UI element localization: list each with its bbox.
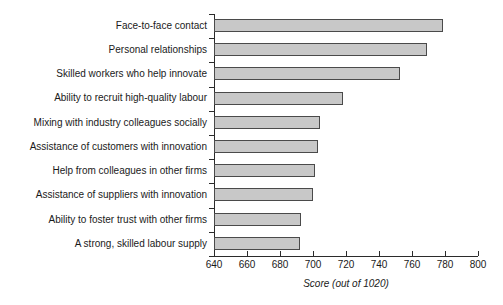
category-label: Assistance of suppliers with innovation <box>0 189 207 200</box>
x-axis-tick <box>412 251 413 256</box>
x-axis-tick-label: 760 <box>404 259 421 270</box>
x-axis-tick <box>214 251 215 256</box>
x-axis-tick <box>313 251 314 256</box>
bar <box>214 188 313 201</box>
x-axis-line <box>214 256 478 257</box>
bar <box>214 237 300 250</box>
x-axis-tick-label: 720 <box>338 259 355 270</box>
x-axis-tick-label: 640 <box>206 259 223 270</box>
bar <box>214 19 443 32</box>
category-label: Mixing with industry colleagues socially <box>0 117 207 128</box>
category-label: Ability to foster trust with other firms <box>0 214 207 225</box>
x-axis-tick <box>478 251 479 256</box>
x-axis-tick <box>379 251 380 256</box>
x-axis-tick-label: 700 <box>305 259 322 270</box>
x-axis-tick-label: 780 <box>437 259 454 270</box>
x-axis-tick-label: 800 <box>470 259 487 270</box>
bar <box>214 213 301 226</box>
x-axis-tick-label: 680 <box>272 259 289 270</box>
category-label: Ability to recruit high-quality labour <box>0 92 207 103</box>
bar <box>214 67 400 80</box>
bar <box>214 92 343 105</box>
plot-area <box>214 14 478 256</box>
category-label: Skilled workers who help innovate <box>0 68 207 79</box>
x-axis-tick <box>280 251 281 256</box>
x-axis-title: Score (out of 1020) <box>214 278 478 289</box>
x-axis-tick <box>445 251 446 256</box>
x-axis-tick-label: 660 <box>239 259 256 270</box>
category-label: Assistance of customers with innovation <box>0 141 207 152</box>
x-axis-tick <box>247 251 248 256</box>
x-axis-tick <box>346 251 347 256</box>
category-label: A strong, skilled labour supply <box>0 238 207 249</box>
bar <box>214 164 315 177</box>
bar <box>214 43 427 56</box>
bar-chart: Face-to-face contact Personal relationsh… <box>0 0 503 305</box>
x-axis-tick-label: 740 <box>371 259 388 270</box>
category-label: Help from colleagues in other firms <box>0 165 207 176</box>
bar <box>214 116 320 129</box>
bar <box>214 140 318 153</box>
category-label: Personal relationships <box>0 44 207 55</box>
category-labels: Face-to-face contact Personal relationsh… <box>0 14 207 256</box>
category-label: Face-to-face contact <box>0 20 207 31</box>
y-axis-tick <box>209 256 214 257</box>
